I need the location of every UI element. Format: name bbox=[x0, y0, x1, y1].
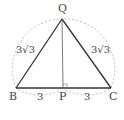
label-pc: 3 bbox=[84, 91, 90, 102]
label-b: B bbox=[9, 90, 17, 103]
label-side-bq: 3√3 bbox=[16, 44, 35, 55]
label-c: C bbox=[109, 90, 117, 103]
label-bp: 3 bbox=[37, 91, 43, 102]
triangle-diagram: Q B C P 3√3 3√3 3 3 bbox=[0, 0, 124, 120]
label-side-qc: 3√3 bbox=[91, 44, 110, 55]
label-p: P bbox=[59, 90, 67, 103]
altitude-qp bbox=[62, 19, 63, 88]
label-q: Q bbox=[58, 2, 67, 15]
